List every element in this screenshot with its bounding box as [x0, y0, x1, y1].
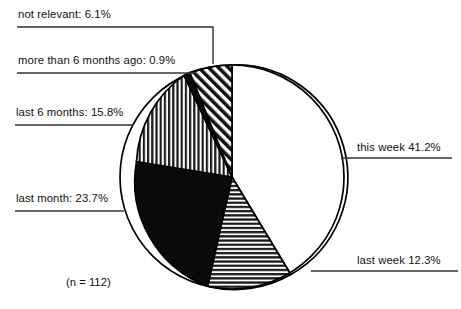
label-last-month: last month: 23.7%: [16, 193, 108, 204]
label-last-6-months: last 6 months: 15.8%: [16, 107, 124, 118]
sample-size-note: (n = 112): [66, 277, 111, 288]
label-this-week: this week 41.2%: [357, 142, 441, 153]
label-last-week: last week 12.3%: [357, 255, 441, 266]
label-more-than-6-months-ago: more than 6 months ago: 0.9%: [18, 55, 175, 66]
label-not-relevant: not relevant: 6.1%: [18, 9, 111, 20]
pie-chart-figure: not relevant: 6.1% more than 6 months ag…: [0, 0, 461, 309]
